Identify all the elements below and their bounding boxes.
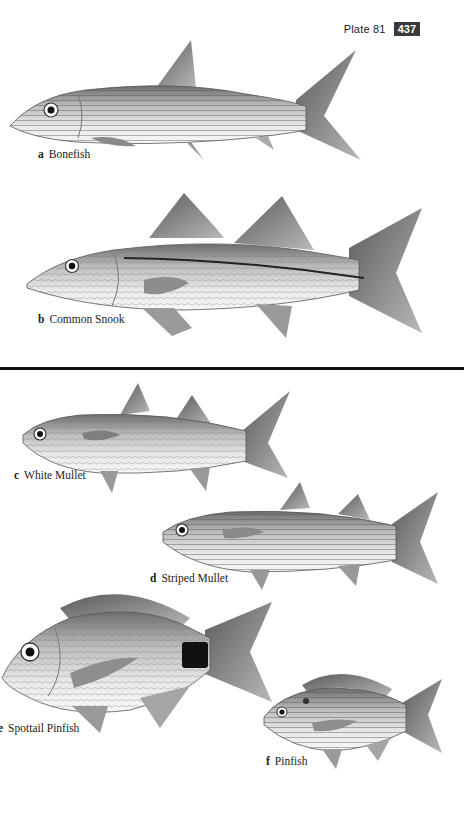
bonefish-illustration-icon	[6, 38, 366, 163]
caption-name: Common Snook	[49, 313, 124, 325]
plate-header: Plate 81 437	[344, 22, 420, 36]
species-caption-f: fPinfish	[266, 755, 307, 767]
caption-letter: c	[14, 469, 19, 481]
caption-name: White Mullet	[24, 469, 86, 481]
caption-letter: b	[38, 313, 44, 325]
caption-letter: f	[266, 755, 270, 767]
plate-label: Plate 81	[344, 23, 386, 35]
spottail-pinfish-illustration-icon	[0, 578, 276, 738]
species-caption-e: eSpottail Pinfish	[0, 722, 79, 734]
caption-name: Spottail Pinfish	[8, 722, 79, 734]
page-number-badge: 437	[394, 22, 420, 36]
section-divider	[0, 367, 464, 370]
species-caption-b: bCommon Snook	[38, 313, 125, 325]
caption-letter: e	[0, 722, 3, 734]
species-caption-a: aBonefish	[38, 148, 90, 160]
caption-name: Pinfish	[275, 755, 308, 767]
caption-name: Bonefish	[49, 148, 91, 160]
caption-letter: a	[38, 148, 44, 160]
species-caption-c: cWhite Mullet	[14, 469, 86, 481]
